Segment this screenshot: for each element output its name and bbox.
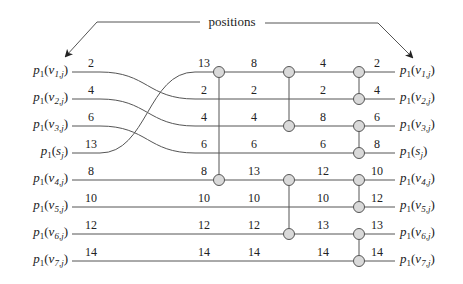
position-value: 12	[248, 219, 260, 231]
left-row-label: p1(v3,j)	[33, 117, 68, 133]
position-value: 8	[320, 111, 326, 123]
comparator-node-icon	[214, 175, 225, 186]
position-value: 4	[88, 84, 94, 96]
position-value: 10	[371, 165, 383, 177]
position-value: 2	[201, 84, 207, 96]
position-value: 10	[198, 192, 210, 204]
position-value: 14	[248, 246, 260, 258]
position-value: 2	[251, 84, 257, 96]
position-value: 12	[371, 192, 383, 204]
left-row-label: p1(v1,j)	[33, 63, 68, 79]
position-value: 13	[248, 165, 260, 177]
comparator-node-icon	[284, 121, 295, 132]
left-row-label: p1(sj)	[41, 144, 68, 160]
position-value: 10	[248, 192, 260, 204]
positions-title: positions	[205, 15, 260, 28]
position-value: 2	[320, 84, 326, 96]
position-value: 14	[371, 246, 383, 258]
position-value: 6	[320, 138, 326, 150]
wire-crossing	[72, 72, 395, 153]
right-row-label: p1(v3,j)	[400, 117, 435, 133]
position-value: 12	[85, 219, 97, 231]
comparator-node-icon	[354, 229, 365, 240]
position-value: 13	[371, 219, 383, 231]
left-row-label: p1(v4,j)	[33, 171, 68, 187]
left-row-label: p1(v7,j)	[33, 252, 68, 268]
left-arrow	[66, 22, 200, 56]
comparator-node-icon	[354, 256, 365, 267]
position-value: 14	[317, 246, 329, 258]
right-row-label: p1(v6,j)	[400, 225, 435, 241]
wire-crossing	[72, 72, 395, 99]
position-value: 10	[85, 192, 97, 204]
wire-crossing	[72, 99, 395, 126]
position-value: 13	[85, 138, 97, 150]
left-row-label: p1(v5,j)	[33, 198, 68, 214]
comparator-node-icon	[354, 202, 365, 213]
wires	[72, 72, 395, 261]
comparators	[214, 67, 365, 267]
left-row-label: p1(v6,j)	[33, 225, 68, 241]
position-value: 12	[317, 165, 329, 177]
right-row-label: p1(v2,j)	[400, 90, 435, 106]
position-value: 13	[198, 57, 210, 69]
comparator-node-icon	[354, 148, 365, 159]
position-value: 6	[201, 138, 207, 150]
comparator-node-icon	[214, 67, 225, 78]
position-value: 4	[201, 111, 207, 123]
right-row-label: p1(v1,j)	[400, 63, 435, 79]
position-value: 2	[374, 57, 380, 69]
position-value: 4	[320, 57, 326, 69]
position-value: 8	[251, 57, 257, 69]
position-value: 8	[88, 165, 94, 177]
comparator-node-icon	[284, 67, 295, 78]
position-value: 8	[374, 138, 380, 150]
position-value: 8	[201, 165, 207, 177]
comparator-node-icon	[354, 175, 365, 186]
position-value: 14	[198, 246, 210, 258]
comparator-node-icon	[284, 229, 295, 240]
right-row-label: p1(v7,j)	[400, 252, 435, 268]
position-value: 12	[198, 219, 210, 231]
position-value: 10	[317, 192, 329, 204]
comparator-node-icon	[284, 175, 295, 186]
comparator-node-icon	[354, 121, 365, 132]
position-value: 6	[88, 111, 94, 123]
position-value: 4	[251, 111, 257, 123]
position-value: 4	[374, 84, 380, 96]
right-row-label: p1(v5,j)	[400, 198, 435, 214]
right-arrow	[265, 23, 412, 57]
position-value: 13	[317, 219, 329, 231]
comparator-node-icon	[354, 67, 365, 78]
wire-crossing	[72, 126, 395, 153]
position-value: 6	[251, 138, 257, 150]
position-value: 14	[85, 246, 97, 258]
left-row-label: p1(v2,j)	[33, 90, 68, 106]
comparator-node-icon	[354, 94, 365, 105]
sorting-network-diagram	[0, 0, 463, 284]
right-row-label: p1(sj)	[400, 144, 427, 160]
right-row-label: p1(v4,j)	[400, 171, 435, 187]
position-value: 6	[374, 111, 380, 123]
position-value: 2	[88, 57, 94, 69]
